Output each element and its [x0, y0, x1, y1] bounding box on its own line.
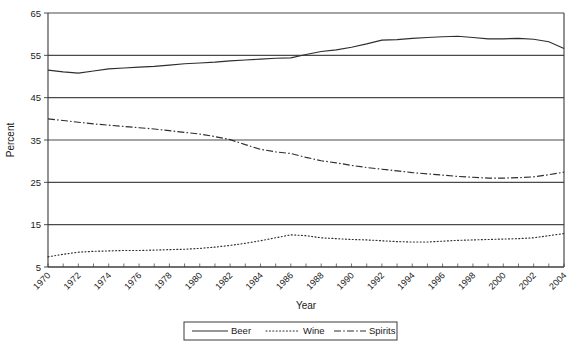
y-tick-label: 45 [30, 92, 41, 103]
legend-label-spirits: Spirits [369, 325, 396, 336]
line-chart: 5152535455565 19701972197419761978198019… [0, 0, 574, 348]
legend-label-beer: Beer [231, 325, 251, 336]
y-tick-label: 35 [30, 135, 41, 146]
chart-legend: BeerWineSpirits [184, 322, 397, 340]
chart-canvas: 5152535455565 19701972197419761978198019… [0, 0, 574, 348]
y-tick-label: 65 [30, 8, 41, 19]
y-tick-label: 15 [30, 219, 41, 230]
legend-label-wine: Wine [303, 325, 325, 336]
y-tick-label: 25 [30, 177, 41, 188]
chart-background [0, 0, 574, 348]
x-axis-title: Year [296, 300, 317, 311]
y-tick-label: 55 [30, 50, 41, 61]
y-axis-title: Percent [5, 123, 16, 158]
y-tick-label: 5 [36, 262, 41, 273]
